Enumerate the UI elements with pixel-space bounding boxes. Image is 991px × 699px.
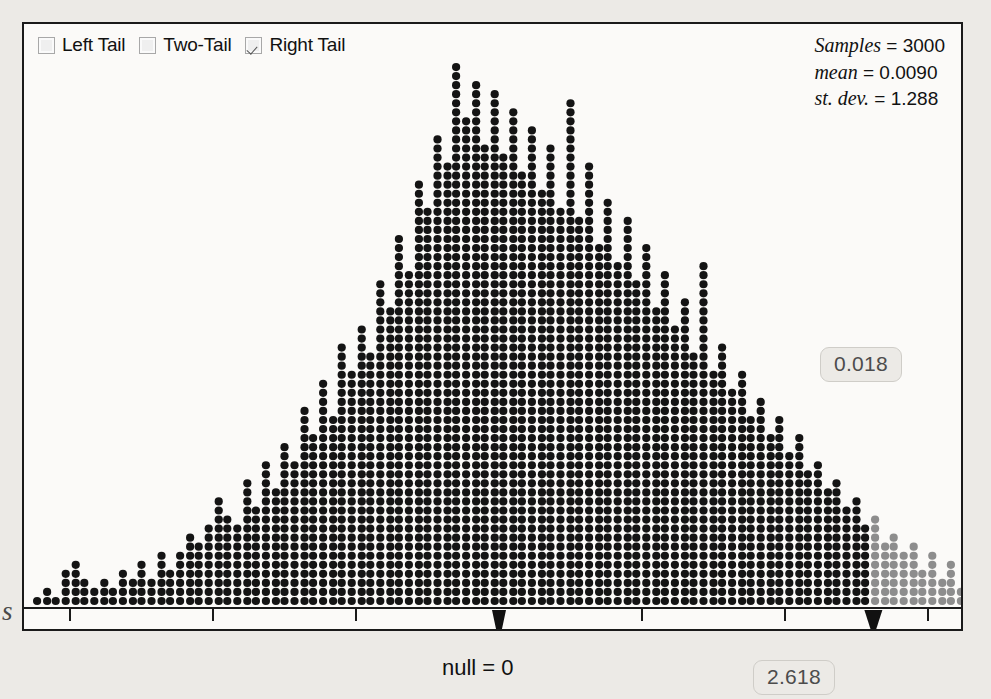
- dot: [491, 289, 499, 297]
- dot: [595, 307, 603, 315]
- dot: [738, 398, 746, 406]
- dot: [462, 479, 470, 487]
- dot: [215, 597, 223, 605]
- dot: [376, 579, 384, 587]
- dot: [671, 597, 679, 605]
- dot: [518, 588, 526, 596]
- two-tail-checkbox[interactable]: [139, 37, 156, 54]
- dot: [290, 543, 298, 551]
- dot: [709, 407, 717, 415]
- dot: [300, 543, 308, 551]
- dot: [900, 597, 908, 605]
- legend-item-left-tail[interactable]: Left Tail: [38, 34, 125, 56]
- dot: [186, 561, 194, 569]
- dot: [509, 117, 517, 125]
- dot: [243, 488, 251, 496]
- dot: [585, 461, 593, 469]
- test-statistic-marker[interactable]: [864, 610, 882, 629]
- dot: [319, 479, 327, 487]
- dot: [709, 579, 717, 587]
- dot: [319, 534, 327, 542]
- dot: [415, 307, 423, 315]
- p-value-badge[interactable]: 0.018: [820, 347, 902, 382]
- dot: [681, 534, 689, 542]
- dot: [481, 262, 489, 270]
- dot: [785, 597, 793, 605]
- dot: [546, 570, 554, 578]
- dot: [376, 488, 384, 496]
- dot: [423, 434, 431, 442]
- dot: [386, 461, 394, 469]
- dot: [423, 497, 431, 505]
- stat-mean-key: mean: [814, 61, 857, 83]
- dot: [595, 443, 603, 451]
- dot: [252, 570, 260, 578]
- dot: [338, 470, 346, 478]
- dot: [366, 452, 374, 460]
- dot: [595, 452, 603, 460]
- test-statistic-badge[interactable]: 2.618: [753, 660, 835, 695]
- dot: [757, 561, 765, 569]
- dot: [481, 325, 489, 333]
- dot: [585, 515, 593, 523]
- left-tail-checkbox[interactable]: [38, 37, 55, 54]
- dot: [481, 425, 489, 433]
- dot: [689, 534, 697, 542]
- dot: [499, 190, 507, 198]
- legend-item-right-tail[interactable]: Right Tail: [245, 34, 345, 56]
- dot: [528, 280, 536, 288]
- dot: [804, 497, 812, 505]
- dot: [595, 371, 603, 379]
- dot: [433, 244, 441, 252]
- dot: [223, 543, 231, 551]
- dot: [509, 289, 517, 297]
- dot: [842, 506, 850, 514]
- dot: [376, 371, 384, 379]
- dot: [376, 461, 384, 469]
- dot: [614, 362, 622, 370]
- dot: [272, 534, 280, 542]
- dot: [300, 443, 308, 451]
- dot: [309, 452, 317, 460]
- dot: [443, 271, 451, 279]
- dot: [452, 126, 460, 134]
- dot: [681, 525, 689, 533]
- dot: [632, 488, 640, 496]
- dot: [681, 353, 689, 361]
- dot: [642, 362, 650, 370]
- dot: [243, 506, 251, 514]
- dot: [689, 398, 697, 406]
- dot: [604, 380, 612, 388]
- dot: [252, 534, 260, 542]
- null-marker[interactable]: [492, 610, 506, 629]
- dot: [642, 506, 650, 514]
- dot: [661, 398, 669, 406]
- dot: [832, 588, 840, 596]
- right-tail-checkbox[interactable]: [245, 37, 262, 54]
- dot: [699, 334, 707, 342]
- dot: [223, 588, 231, 596]
- dot: [262, 534, 270, 542]
- dot: [624, 344, 632, 352]
- dot: [575, 271, 583, 279]
- dot: [928, 588, 936, 596]
- dot: [910, 552, 918, 560]
- dot: [689, 488, 697, 496]
- dot: [689, 434, 697, 442]
- dot: [386, 597, 394, 605]
- dot: [528, 235, 536, 243]
- dot: [538, 443, 546, 451]
- dot: [900, 579, 908, 587]
- dot: [405, 307, 413, 315]
- dot: [443, 434, 451, 442]
- dot: [157, 588, 165, 596]
- dot: [681, 452, 689, 460]
- dot: [423, 552, 431, 560]
- dot: [642, 371, 650, 379]
- dot: [681, 344, 689, 352]
- dot: [423, 371, 431, 379]
- legend-item-two-tail[interactable]: Two-Tail: [139, 34, 231, 56]
- dot: [499, 389, 507, 397]
- dot: [824, 588, 832, 596]
- dot: [585, 425, 593, 433]
